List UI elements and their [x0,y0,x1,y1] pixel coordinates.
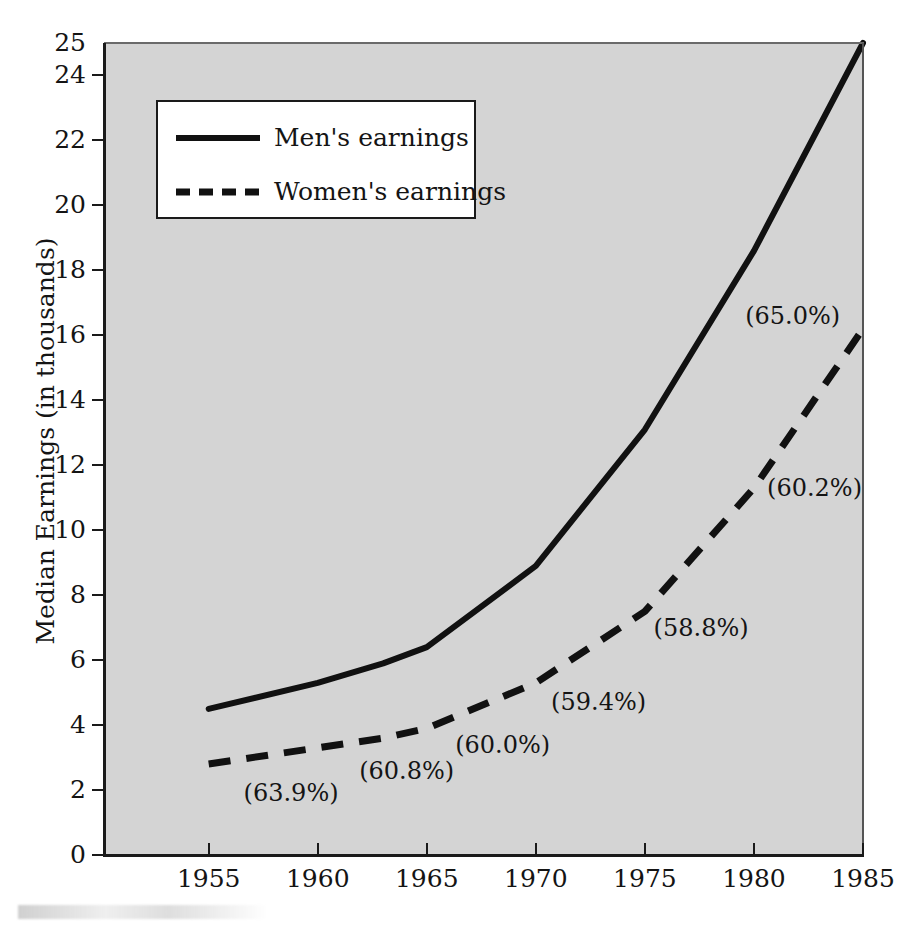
y-axis-tick [92,659,104,661]
x-axis-tick [426,843,428,856]
y-axis-tick-label: 25 [34,30,86,55]
x-axis-tick-label: 1960 [273,864,363,894]
scan-artifact [0,903,904,932]
y-axis-tick [92,204,104,206]
x-axis-tick [317,843,319,856]
y-axis-tick [92,594,104,596]
chart-legend: Men's earnings Women's earnings [156,100,476,219]
y-axis-tick [92,464,104,466]
chart-figure: 02468101214161820222425 1955196019651970… [0,0,904,932]
legend-item-mens-earnings: Men's earnings [158,118,474,158]
x-axis-tick [753,843,755,856]
chart-annotation: (60.0%) [455,732,550,758]
chart-annotation: (60.8%) [359,758,454,784]
y-axis-tick [92,74,104,76]
y-axis-tick-label: 2 [34,777,86,802]
x-axis-tick [208,843,210,856]
x-axis-tick-label: 1955 [164,864,254,894]
legend-swatch-dashed-line-icon [176,187,260,197]
x-axis-tick-label: 1975 [600,864,690,894]
y-axis-tick [92,399,104,401]
x-axis-tick [862,843,864,856]
chart-annotation: (63.9%) [244,780,339,806]
plot-frame-top [104,42,864,44]
y-axis-tick-label: 0 [34,842,86,867]
x-axis-tick-label: 1980 [709,864,799,894]
y-axis-tick [92,789,104,791]
chart-annotation: (65.0%) [745,303,840,329]
x-axis-line [103,854,864,857]
chart-annotation: (59.4%) [551,689,646,715]
x-axis-tick [644,843,646,856]
x-axis-tick-label: 1970 [491,864,581,894]
legend-label-mens-earnings: Men's earnings [274,125,469,151]
legend-swatch-solid-line-icon [176,133,260,143]
x-axis-tick [535,843,537,856]
plot-frame-right [862,43,864,856]
y-axis-tick [92,529,104,531]
y-axis-tick [92,724,104,726]
y-axis-tick [92,139,104,141]
y-axis-tick [92,854,104,856]
chart-annotation: (58.8%) [654,615,749,641]
y-axis-tick-label: 24 [34,62,86,87]
legend-label-womens-earnings: Women's earnings [274,179,506,205]
series-womens-earnings-line [209,329,863,764]
x-axis-tick-label: 1985 [818,864,904,894]
x-axis-tick-label: 1965 [382,864,472,894]
y-axis-title: Median Earnings (in thousands) [32,161,60,721]
y-axis-tick-label: 22 [34,127,86,152]
chart-annotation: (60.2%) [767,475,862,501]
scan-smudge [18,905,268,919]
legend-item-womens-earnings: Women's earnings [158,172,474,212]
y-axis-tick [92,334,104,336]
y-axis-line [103,43,106,856]
y-axis-tick [92,269,104,271]
